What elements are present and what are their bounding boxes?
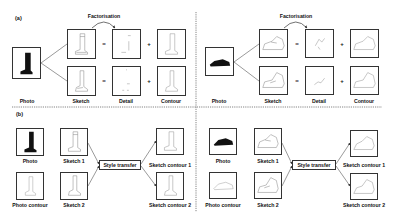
- label-sketch-contour1: Sketch contour 1: [343, 162, 385, 168]
- style-transfer-box: Style transfer: [292, 160, 336, 170]
- label-detail: Detail: [312, 98, 326, 104]
- boot-photo-b: [16, 128, 44, 156]
- label-sketch1: Sketch 1: [63, 158, 84, 164]
- boot-sketch-2: [67, 66, 96, 96]
- label-sketch1: Sketch 1: [257, 158, 278, 164]
- shoe-photo: [205, 47, 234, 76]
- equals-operator: =: [295, 41, 299, 47]
- equals-operator: =: [102, 78, 106, 84]
- equals-operator: =: [295, 78, 299, 84]
- label-sketch-contour2: Sketch contour 2: [149, 202, 191, 208]
- boot-contour-2: [157, 66, 186, 96]
- plus-operator: +: [147, 41, 151, 47]
- shoe-contour-1: [350, 29, 379, 58]
- shoe-contour-2: [350, 66, 379, 95]
- label-contour: Contour: [354, 98, 374, 104]
- boot-sketch-contour-1: [156, 128, 184, 155]
- shoe-detail-2: [305, 66, 334, 95]
- shoe-detail-1: [305, 29, 334, 58]
- label-detail: Detail: [119, 98, 133, 104]
- style-transfer-box: Style transfer: [99, 160, 141, 170]
- boot-contour-1: [157, 29, 186, 59]
- label-photo: Photo: [212, 98, 227, 104]
- plus-operator: +: [340, 41, 344, 47]
- label-sketch-contour1: Sketch contour 1: [149, 162, 191, 168]
- label-photo-b: Photo: [23, 158, 38, 164]
- shoe-sketch1-b: [254, 128, 282, 155]
- boot-detail-1: [112, 29, 141, 59]
- shoe-sketch-contour-1: [350, 130, 378, 157]
- figure: (a) Factorisation Factorisation = = + + …: [0, 0, 399, 221]
- plus-operator: +: [340, 78, 344, 84]
- boot-sketch2-b: [60, 172, 88, 200]
- label-sketch: Sketch: [264, 98, 281, 104]
- shoe-photo-contour: [209, 172, 237, 199]
- shoe-sketch-2: [259, 66, 288, 95]
- shoe-photo-b: [209, 128, 237, 155]
- label-photo-contour: Photo contour: [12, 202, 47, 208]
- boot-sketch-contour-2: [156, 172, 184, 200]
- boot-sketch-1: [67, 29, 96, 59]
- factorisation-label-right: Factorisation: [280, 13, 313, 19]
- shoe-sketch-1: [259, 29, 288, 58]
- shoe-sketch2-b: [254, 172, 282, 199]
- label-sketch2: Sketch 2: [63, 202, 84, 208]
- label-sketch2: Sketch 2: [257, 202, 278, 208]
- label-sketch-contour2: Sketch contour 2: [343, 202, 385, 208]
- label-photo-b: Photo: [216, 158, 231, 164]
- panel-b-label: (b): [16, 111, 23, 117]
- plus-operator: +: [147, 78, 151, 84]
- label-photo: Photo: [20, 98, 35, 104]
- boot-sketch1-b: [60, 128, 88, 156]
- boot-photo: [12, 47, 41, 79]
- shoe-sketch-contour-2: [350, 173, 378, 200]
- boot-detail-2: [112, 66, 141, 96]
- panel-a-label: (a): [15, 15, 22, 21]
- label-contour: Contour: [161, 98, 181, 104]
- label-photo-contour: Photo contour: [205, 202, 240, 208]
- label-sketch: Sketch: [72, 98, 89, 104]
- factorisation-label-left: Factorisation: [88, 13, 121, 19]
- equals-operator: =: [102, 41, 106, 47]
- boot-photo-contour: [16, 172, 44, 200]
